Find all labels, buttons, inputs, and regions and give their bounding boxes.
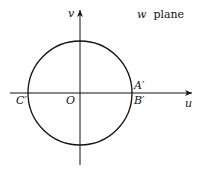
v-axis-label: v — [68, 7, 75, 20]
w-plane-diagram: v w plane A′ B′ C′ O u — [0, 0, 202, 170]
point-c-prime: C′ — [16, 94, 27, 107]
point-b-prime: B′ — [133, 94, 145, 107]
point-a-prime: A′ — [133, 79, 145, 92]
plane-title: w plane — [137, 4, 184, 21]
origin-label: O — [66, 94, 75, 107]
u-axis-label: u — [185, 97, 192, 110]
